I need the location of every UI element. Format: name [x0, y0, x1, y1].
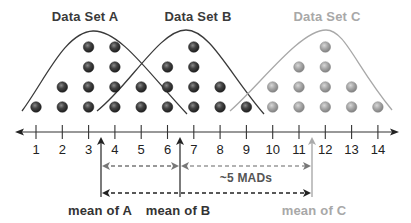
tick-label: 5: [138, 142, 145, 157]
tick-label: 11: [292, 142, 306, 157]
tick-label: 9: [243, 142, 250, 157]
tick-label: 1: [32, 142, 39, 157]
tick-label: 10: [265, 142, 279, 157]
data-dot: [189, 42, 200, 53]
data-dots: [31, 42, 384, 113]
data-dot: [294, 62, 305, 73]
data-dot: [83, 42, 94, 53]
data-dot: [110, 102, 121, 113]
curve-a: [22, 31, 187, 114]
data-dot: [294, 102, 305, 113]
data-dot: [83, 102, 94, 113]
mean-b-label: mean of B: [146, 203, 211, 218]
tick-label: 2: [59, 142, 66, 157]
data-dot: [57, 102, 68, 113]
data-dot: [320, 102, 331, 113]
data-dot: [373, 102, 384, 113]
tick-label: 13: [344, 142, 358, 157]
data-dot: [241, 102, 252, 113]
data-dot: [320, 82, 331, 93]
data-dot: [136, 102, 147, 113]
data-dot: [110, 42, 121, 53]
title-data-set-c: Data Set C: [293, 9, 360, 24]
data-dot: [110, 62, 121, 73]
data-dot: [267, 102, 278, 113]
tick-label: 14: [371, 142, 385, 157]
data-dot: [162, 82, 173, 93]
data-dot: [267, 82, 278, 93]
tick-label: 4: [111, 142, 118, 157]
tick-label: 7: [190, 142, 197, 157]
data-dot: [162, 62, 173, 73]
data-dot: [215, 82, 226, 93]
data-dot: [320, 42, 331, 53]
data-dot: [83, 82, 94, 93]
data-dot: [83, 62, 94, 73]
data-dot: [57, 82, 68, 93]
data-dot: [110, 82, 121, 93]
data-dot: [136, 82, 147, 93]
title-data-set-a: Data Set A: [52, 9, 119, 24]
data-dot: [189, 62, 200, 73]
data-dot: [31, 102, 42, 113]
diagram-graphics: [0, 0, 411, 223]
mad-annotation: ~5 MADs: [220, 171, 272, 185]
tick-label: 12: [318, 142, 332, 157]
mean-a-label: mean of A: [68, 203, 132, 218]
data-dot: [162, 102, 173, 113]
tick-label: 3: [85, 142, 92, 157]
mean-c-label: mean of C: [282, 203, 347, 218]
data-dot: [215, 102, 226, 113]
curve-b: [97, 30, 264, 114]
data-dot: [189, 82, 200, 93]
tick-label: 8: [216, 142, 223, 157]
data-dot: [346, 102, 357, 113]
data-dot: [346, 82, 357, 93]
data-dot: [294, 82, 305, 93]
tick-label: 6: [164, 142, 171, 157]
data-dot: [189, 102, 200, 113]
dot-plot-diagram: Data Set A Data Set B Data Set C 1234567…: [0, 0, 411, 223]
data-dot: [320, 62, 331, 73]
title-data-set-b: Data Set B: [164, 9, 231, 24]
curve-c: [230, 30, 392, 111]
